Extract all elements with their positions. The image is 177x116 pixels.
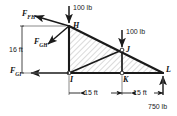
reaction-label-L: 750 lb bbox=[148, 103, 167, 110]
arrow-F-GH bbox=[48, 26, 69, 44]
force-label-F-GH: FGH bbox=[34, 38, 48, 48]
load-label-H: 100 lb bbox=[73, 4, 92, 11]
joint-label-K: K bbox=[123, 76, 128, 84]
force-subscript-GH: GH bbox=[39, 42, 47, 48]
force-subscript-FH: FH bbox=[27, 14, 35, 20]
arrow-F-FH bbox=[35, 16, 69, 26]
joint-label-L: L bbox=[166, 66, 171, 74]
force-subscript-GI: GI bbox=[15, 71, 21, 77]
joint-label-J: J bbox=[126, 46, 130, 54]
force-label-F-GI: FGI bbox=[10, 67, 21, 77]
dimension-label-15ft-KL: 15 ft bbox=[133, 89, 147, 96]
load-label-J: 100 lb bbox=[126, 28, 145, 35]
force-label-F-FH: FFH bbox=[22, 10, 35, 20]
dimension-vertical-16ft bbox=[22, 26, 66, 73]
truss-diagram-figure: H I J K L FFH FGH FGI 100 lb 100 lb 750 … bbox=[0, 0, 177, 116]
dimension-label-15ft-IK: 15 ft bbox=[84, 89, 98, 96]
joint-label-H: H bbox=[73, 22, 79, 30]
dimension-label-16ft: 16 ft bbox=[9, 46, 23, 53]
joint-J-pin bbox=[120, 48, 124, 52]
joint-label-I: I bbox=[70, 76, 73, 84]
